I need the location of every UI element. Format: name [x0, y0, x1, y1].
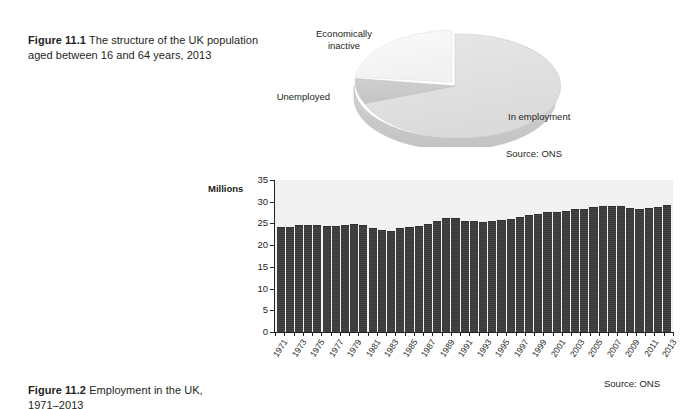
bar [405, 227, 413, 332]
bar [626, 208, 634, 332]
y-axis-tick [270, 245, 275, 246]
y-axis-title: Millions [208, 183, 243, 194]
bar [589, 207, 597, 332]
bar-chart-plot-area: 05101520253035 [274, 180, 673, 333]
bar [387, 231, 395, 332]
y-axis-tick [270, 267, 275, 268]
bar [617, 206, 625, 333]
bar [396, 228, 404, 332]
figure-1-label: Figure 11.1 [28, 34, 86, 46]
pie-label-economically-inactive: Economically inactive [305, 28, 383, 52]
bar [663, 205, 671, 332]
bar [286, 227, 294, 332]
bar [350, 224, 358, 332]
bar-series [275, 180, 673, 332]
bar [359, 225, 367, 332]
y-axis-tick [270, 223, 275, 224]
y-axis-tick-label: 10 [257, 284, 268, 294]
bar [608, 206, 616, 332]
bar [369, 228, 377, 332]
y-axis-tick-label: 35 [257, 175, 268, 185]
bar [433, 221, 441, 332]
bar [580, 209, 588, 332]
y-axis-tick-label: 25 [257, 219, 268, 229]
y-axis-tick [270, 310, 275, 311]
figure-1-source: Source: ONS [506, 148, 562, 159]
bar [295, 225, 303, 332]
y-axis-tick [270, 289, 275, 290]
bar [470, 221, 478, 332]
figure-2-source: Source: ONS [604, 378, 660, 389]
y-axis-tick-label: 5 [263, 306, 268, 316]
bar [571, 209, 579, 332]
bar [525, 215, 533, 332]
bar [378, 230, 386, 332]
pie-label-in-employment: In employment [508, 111, 604, 123]
bar [479, 222, 487, 332]
bar [553, 212, 561, 332]
y-axis-tick-label: 0 [263, 327, 268, 337]
bar [304, 225, 312, 332]
bar [451, 218, 459, 332]
bar [277, 227, 285, 332]
pie-label-economically-inactive-line1: Economically [305, 28, 383, 40]
x-axis-label: 2013 [671, 322, 689, 343]
y-axis-tick-label: 15 [257, 262, 268, 272]
bar [442, 218, 450, 332]
bar [507, 219, 515, 332]
bar [497, 220, 505, 332]
bar [635, 209, 643, 332]
bar [424, 224, 432, 332]
figure-2-label: Figure 11.2 [28, 384, 86, 396]
bar [562, 211, 570, 332]
bar [323, 226, 331, 332]
bar [543, 212, 551, 332]
bar [341, 225, 349, 332]
y-axis-tick [270, 180, 275, 181]
bar [332, 226, 340, 332]
bar [313, 225, 321, 332]
y-axis-tick-label: 20 [257, 240, 268, 250]
y-axis-tick [270, 202, 275, 203]
figure-2-caption: Figure 11.2 Employment in the UK, 1971–2… [28, 383, 213, 409]
y-axis-tick-label: 30 [257, 197, 268, 207]
bar [461, 221, 469, 332]
pie-label-economically-inactive-line2: inactive [305, 40, 383, 52]
bar [534, 214, 542, 332]
bar [415, 226, 423, 332]
pie-label-unemployed: Unemployed [256, 91, 330, 103]
bar [599, 206, 607, 332]
bar [654, 207, 662, 332]
bar [645, 208, 653, 332]
figure-11-2: Figure 11.2 Employment in the UK, 1971–2… [0, 172, 698, 409]
x-axis-tick [275, 332, 276, 336]
figure-1-caption: Figure 11.1 The structure of the UK popu… [28, 33, 278, 63]
bar [488, 221, 496, 332]
bar [516, 217, 524, 332]
figure-11-1: Figure 11.1 The structure of the UK popu… [0, 0, 698, 175]
